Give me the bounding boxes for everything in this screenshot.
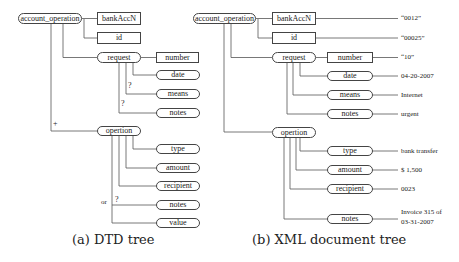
value-operation-notes-line1: Invoice 315 of <box>401 208 442 217</box>
cardinality-means: ? <box>128 81 132 91</box>
dtd-node-operation-notes: notes <box>156 200 200 210</box>
dtd-node-recipient: recipient <box>156 181 200 191</box>
xml-node-amount: amount <box>327 165 373 175</box>
value-recipient: 0023 <box>401 185 415 194</box>
value-means: Internet <box>401 91 423 100</box>
xml-node-date: date <box>327 71 373 81</box>
value-id: “00025” <box>401 34 425 43</box>
xml-node-request-notes: notes <box>327 109 373 119</box>
dtd-node-type: type <box>156 144 200 154</box>
xml-node-bankaccn: bankAccN <box>272 12 316 25</box>
xml-node-id: id <box>272 32 316 44</box>
dtd-node-id: id <box>97 32 141 44</box>
value-number: “10” <box>401 53 414 62</box>
value-amount: $ 1,500 <box>401 166 422 175</box>
value-bankaccn: “0012” <box>401 14 421 23</box>
dtd-node-means: means <box>156 89 200 99</box>
dtd-node-request: request <box>97 52 141 63</box>
connector-lines <box>0 0 459 262</box>
xml-node-number: number <box>327 52 373 63</box>
dtd-node-operation: opertion <box>97 126 141 136</box>
value-type: bank transfer <box>401 147 438 156</box>
dtd-node-date: date <box>156 70 200 80</box>
dtd-node-value: value <box>156 218 200 228</box>
value-operation-notes-line2: 03-31-2007 <box>401 218 434 227</box>
xml-node-operation: opertion <box>272 127 316 138</box>
dtd-node-bankaccn: bankAccN <box>97 12 141 25</box>
xml-node-operation-notes: notes <box>327 214 373 224</box>
dtd-node-number: number <box>156 52 199 63</box>
xml-node-request: request <box>272 52 316 63</box>
value-request-notes: urgent <box>401 110 419 119</box>
xml-node-account-operation: account_operation <box>193 13 256 24</box>
value-date: 04-20-2007 <box>401 72 434 81</box>
dtd-node-request-notes: notes <box>156 108 200 118</box>
cardinality-operation: + <box>53 119 58 129</box>
cardinality-operation-notes: ? <box>115 195 119 205</box>
dtd-node-account-operation: account_operation <box>18 13 82 24</box>
choice-or-label: or <box>101 197 107 207</box>
xml-node-type: type <box>327 146 373 156</box>
cardinality-request-notes: ? <box>121 99 125 109</box>
xml-node-means: means <box>327 90 373 100</box>
dtd-tree-caption: (a) DTD tree <box>72 232 155 247</box>
xml-node-recipient: recipient <box>327 184 373 194</box>
xml-tree-caption: (b) XML document tree <box>252 232 406 247</box>
dtd-node-amount: amount <box>156 163 200 173</box>
